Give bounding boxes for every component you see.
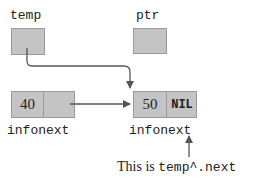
arrows-layer	[0, 0, 254, 182]
temp-to-node-2-arrow	[27, 48, 130, 88]
